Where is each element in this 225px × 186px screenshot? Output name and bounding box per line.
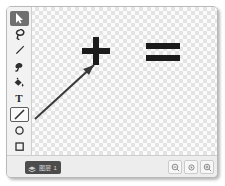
tool-eraser[interactable] bbox=[10, 59, 29, 74]
text-tool-icon: T bbox=[15, 93, 22, 104]
cursor-arrow-icon bbox=[15, 13, 24, 24]
zoom-in-icon bbox=[203, 163, 212, 172]
zoom-reset-icon bbox=[187, 163, 196, 172]
rectangle-tool-icon bbox=[14, 141, 25, 152]
app-window: T bbox=[6, 6, 218, 178]
lasso-icon bbox=[14, 29, 25, 40]
layers-icon bbox=[28, 159, 36, 177]
status-bar: 图层 1 bbox=[7, 155, 218, 178]
canvas-artwork bbox=[7, 7, 218, 155]
zoom-in-button[interactable] bbox=[200, 160, 214, 174]
pencil-icon bbox=[14, 45, 25, 56]
drawing-canvas[interactable]: T bbox=[7, 7, 218, 155]
plus-sign-shape bbox=[82, 37, 110, 65]
zoom-out-icon bbox=[171, 163, 180, 172]
line-tool-icon bbox=[14, 109, 25, 120]
zoom-reset-button[interactable] bbox=[184, 160, 198, 174]
equals-sign-shape bbox=[146, 43, 180, 61]
zoom-out-button[interactable] bbox=[168, 160, 182, 174]
eraser-icon bbox=[14, 61, 25, 72]
tool-line[interactable] bbox=[10, 107, 29, 122]
paint-bucket-icon bbox=[13, 77, 25, 88]
tool-fill[interactable] bbox=[10, 75, 29, 90]
tool-palette: T bbox=[7, 7, 32, 155]
arrow-shape bbox=[35, 65, 94, 119]
layer-status-label: 图层 1 bbox=[39, 165, 57, 171]
tool-lasso[interactable] bbox=[10, 27, 29, 42]
tool-text[interactable]: T bbox=[10, 91, 29, 106]
tool-select[interactable] bbox=[10, 11, 29, 26]
layer-status-button[interactable]: 图层 1 bbox=[25, 161, 61, 174]
tool-ellipse[interactable] bbox=[10, 123, 29, 138]
tool-pencil[interactable] bbox=[10, 43, 29, 58]
zoom-controls bbox=[168, 160, 214, 174]
tool-rectangle[interactable] bbox=[10, 139, 29, 154]
ellipse-tool-icon bbox=[14, 125, 25, 136]
